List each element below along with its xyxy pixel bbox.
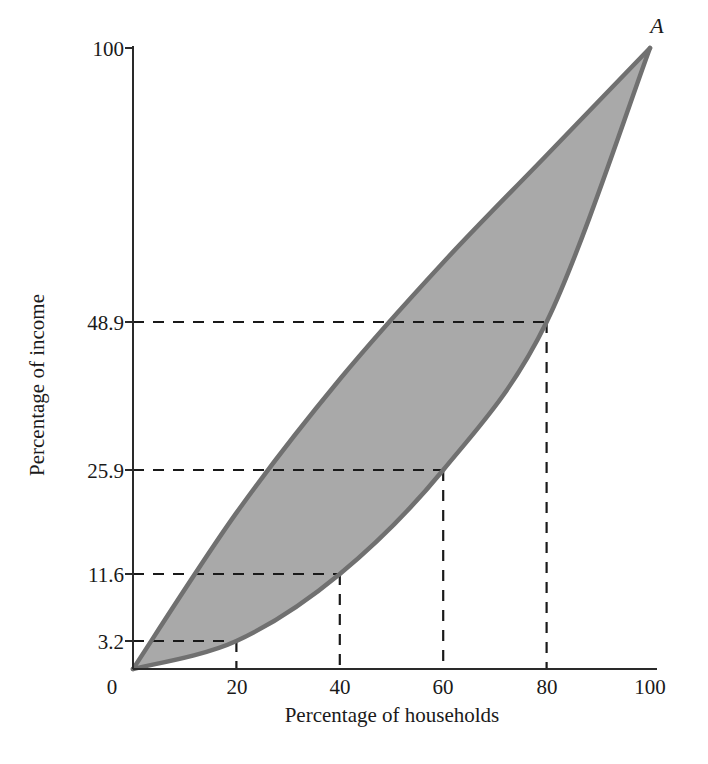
x-tick-label-40: 40 bbox=[330, 675, 351, 699]
y-axis-title: Percentage of income bbox=[25, 294, 49, 476]
y-tick-label-25-9: 25.9 bbox=[87, 459, 124, 483]
lorenz-curve-figure: 0 20 40 60 80 100 100 48.9 25.9 11.6 3.2… bbox=[0, 0, 708, 764]
x-axis-title: Percentage of households bbox=[285, 703, 500, 727]
y-tick-label-3-2: 3.2 bbox=[98, 630, 124, 654]
y-tick-label-11-6: 11.6 bbox=[88, 563, 124, 587]
y-tick-label-100: 100 bbox=[93, 37, 125, 61]
lorenz-curve-chart: 0 20 40 60 80 100 100 48.9 25.9 11.6 3.2… bbox=[0, 0, 708, 764]
x-tick-label-80: 80 bbox=[537, 675, 558, 699]
y-tick-label-48-9: 48.9 bbox=[87, 311, 124, 335]
x-tick-label-100: 100 bbox=[634, 675, 666, 699]
x-tick-label-20: 20 bbox=[227, 675, 248, 699]
x-tick-label-60: 60 bbox=[433, 675, 454, 699]
point-a-label: A bbox=[648, 13, 664, 38]
x-tick-label-0: 0 bbox=[107, 675, 118, 699]
